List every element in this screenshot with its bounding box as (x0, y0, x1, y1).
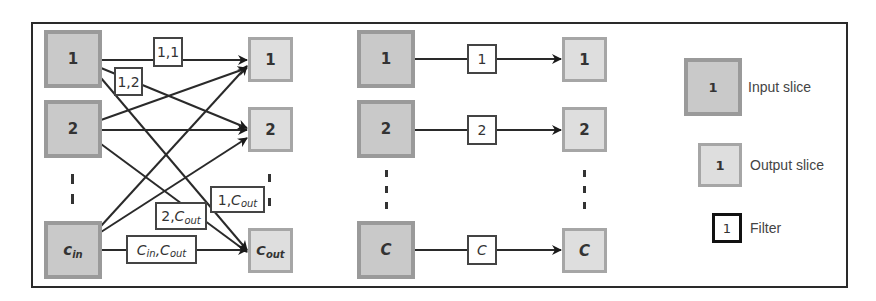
dw-input-slice-1: 1 (357, 30, 415, 88)
legend-sample-label: 1 (723, 221, 731, 236)
filter-label: 1,1 (157, 44, 179, 60)
filter-label: C (477, 242, 487, 258)
filter-label: 2, (161, 208, 174, 224)
dw-input-slice-2: 2 (357, 100, 415, 158)
filter-label: 1 (478, 51, 487, 67)
filter-label: 1,2 (117, 74, 139, 90)
legend-sample-label: 1 (708, 80, 717, 95)
dw-filter-c: C (467, 235, 497, 265)
input-slice-cin: cin (44, 221, 102, 279)
legend-output-sample: 1 (698, 143, 742, 187)
output-slice-label: C (579, 242, 590, 260)
input-slice-2: 2 (44, 100, 102, 158)
output-slice-label: 1 (579, 51, 589, 69)
output-slice-label: 2 (265, 121, 275, 139)
subscript: out (184, 215, 200, 226)
input-slice-label: 1 (381, 50, 391, 68)
legend-filter-label: Filter (750, 220, 781, 236)
filter-label-main: C (231, 192, 241, 208)
subscript: out (170, 248, 186, 259)
subscript: out (266, 249, 285, 260)
output-slice-1: 1 (248, 37, 293, 82)
filter-label-main: C (175, 208, 185, 224)
filter-label: C (137, 242, 147, 258)
output-slice-cout: Cout (248, 228, 293, 273)
legend-sample-label: 1 (715, 158, 724, 173)
input-slice-label: 2 (68, 120, 78, 138)
ellipsis-dash (385, 186, 388, 193)
legend-output-label: Output slice (750, 157, 824, 173)
dw-filter-2: 2 (467, 115, 497, 145)
output-slice-2: 2 (248, 107, 293, 152)
filter-1-2: 1,2 (114, 67, 143, 96)
dw-output-slice-2: 2 (562, 107, 607, 152)
legend-input-label: Input slice (748, 79, 811, 95)
ellipsis-dash (268, 174, 271, 182)
dw-output-slice-c: C (562, 228, 607, 273)
filter-1-cout: 1,Cout (210, 186, 265, 213)
subscript: in (72, 249, 83, 260)
input-slice-label: 2 (381, 120, 391, 138)
filter-label-main: ,C (156, 242, 170, 258)
legend-filter-sample: 1 (712, 213, 742, 243)
ellipsis-dash (268, 198, 271, 206)
filter-label: 1, (218, 192, 231, 208)
dw-input-slice-c: C (357, 221, 415, 279)
input-slice-1: 1 (44, 30, 102, 88)
ellipsis-dash (583, 170, 586, 177)
ellipsis-dash (583, 186, 586, 193)
input-slice-label: C (380, 241, 391, 259)
subscript: in (147, 248, 156, 259)
input-slice-label: 1 (68, 50, 78, 68)
filter-cin-cout: Cin,Cout (126, 235, 197, 264)
output-slice-label: 1 (265, 51, 275, 69)
ellipsis-dash (385, 170, 388, 177)
output-slice-label: 2 (579, 121, 589, 139)
ellipsis-dash (385, 202, 388, 209)
ellipsis-dash (583, 202, 586, 209)
input-slice-label: c (63, 241, 72, 259)
output-slice-label: C (256, 243, 266, 258)
dw-filter-1: 1 (467, 44, 497, 74)
filter-1-1: 1,1 (153, 37, 183, 67)
ellipsis-dash (71, 194, 74, 204)
subscript: out (241, 198, 257, 209)
ellipsis-dash (71, 174, 74, 184)
dw-output-slice-1: 1 (562, 37, 607, 82)
filter-2-cout: 2,Cout (155, 202, 207, 230)
filter-label: 2 (478, 122, 487, 138)
legend-input-sample: 1 (684, 58, 742, 116)
